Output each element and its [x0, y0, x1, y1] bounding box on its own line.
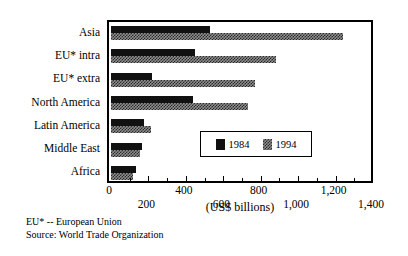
x-axis-tick: [186, 176, 187, 181]
footnote-line: EU* -- European Union: [26, 216, 163, 229]
x-axis-tick: [317, 178, 318, 181]
x-axis-tick-label-800: 800: [250, 184, 267, 196]
x-axis-tick: [167, 178, 168, 181]
chart-figure: AsiaEU* intraEU* extraNorth AmericaLatin…: [0, 0, 408, 256]
x-axis-tick: [130, 178, 131, 181]
x-axis-tick-label-400: 400: [175, 184, 192, 196]
y-axis-label-africa: Africa: [0, 165, 100, 177]
footnote-line: Source: World Trade Organization: [26, 229, 163, 242]
bar-group: [109, 92, 375, 115]
bar-1984-north-america: [111, 96, 193, 103]
bar-group: [109, 69, 375, 92]
legend-swatch-1994: [263, 139, 272, 150]
x-axis-title: (US$ billions): [107, 200, 373, 214]
y-axis-label-middle-east: Middle East: [0, 142, 100, 154]
x-axis-tick: [261, 176, 262, 181]
bar-1994-north-america: [111, 103, 248, 110]
x-axis-tick-label-1200: 1,200: [321, 184, 347, 196]
x-axis-tick: [242, 178, 243, 181]
bar-1994-latin-america: [111, 126, 151, 133]
bar-1984-middle-east: [111, 143, 142, 150]
bar-1984-asia: [111, 26, 210, 33]
legend-entry-1984: 1984: [216, 139, 250, 150]
bar-1994-middle-east: [111, 150, 140, 157]
y-axis-category-labels: AsiaEU* intraEU* extraNorth AmericaLatin…: [0, 20, 104, 183]
bar-1994-asia: [111, 33, 343, 40]
bar-1984-eu-intra: [111, 49, 195, 56]
legend-label-1994: 1994: [276, 139, 297, 150]
chart-footnotes: EU* -- European UnionSource: World Trade…: [26, 216, 163, 241]
y-axis-label-asia: Asia: [0, 26, 100, 38]
x-axis-tick: [205, 178, 206, 181]
legend-label-1984: 1984: [229, 139, 250, 150]
plot-area: [109, 22, 371, 181]
x-axis-tick: [336, 176, 337, 181]
plot-frame: [107, 20, 373, 183]
legend-entry-1994: 1994: [263, 139, 297, 150]
y-axis-label-latin-america: Latin America: [0, 119, 100, 131]
x-axis-tick: [223, 176, 224, 181]
x-axis-tick: [298, 176, 299, 181]
y-axis-label-eu-extra: EU* extra: [0, 72, 100, 84]
x-axis-tick: [279, 178, 280, 181]
bar-group: [109, 162, 375, 185]
x-axis-tick: [148, 176, 149, 181]
chart-legend: 19841994: [200, 131, 312, 157]
y-axis-label-eu-intra: EU* intra: [0, 49, 100, 61]
x-axis-tick: [354, 178, 355, 181]
bar-1984-latin-america: [111, 119, 144, 126]
legend-swatch-1984: [216, 139, 225, 150]
y-axis-label-north-america: North America: [0, 96, 100, 108]
bar-group: [109, 45, 375, 68]
bar-1984-africa: [111, 166, 136, 173]
bar-1994-eu-extra: [111, 80, 255, 87]
x-axis-tick-label-0: 0: [106, 184, 112, 196]
bar-1984-eu-extra: [111, 73, 152, 80]
bar-group: [109, 22, 375, 45]
bar-1994-eu-intra: [111, 56, 276, 63]
